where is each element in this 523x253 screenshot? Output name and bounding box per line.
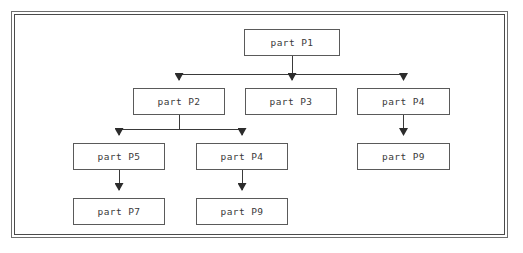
- node-part-p2[interactable]: part P2: [133, 88, 225, 115]
- diagram-screenshot: part P1 part P2 part P3 part P4 part P5 …: [0, 0, 523, 253]
- node-layer: part P1 part P2 part P3 part P4 part P5 …: [0, 0, 523, 253]
- node-label: part P3: [270, 97, 313, 107]
- node-part-p4-right[interactable]: part P4: [357, 88, 450, 115]
- node-part-p9-middle[interactable]: part P9: [196, 198, 288, 225]
- node-label: part P5: [98, 152, 141, 162]
- node-label: part P4: [221, 152, 264, 162]
- node-part-p4-middle[interactable]: part P4: [196, 143, 288, 170]
- node-part-p3[interactable]: part P3: [245, 88, 337, 115]
- node-label: part P9: [221, 207, 264, 217]
- node-label: part P4: [382, 97, 425, 107]
- node-part-p5[interactable]: part P5: [73, 143, 165, 170]
- node-part-p1[interactable]: part P1: [244, 29, 340, 56]
- node-label: part P7: [98, 207, 141, 217]
- node-part-p7[interactable]: part P7: [73, 198, 165, 225]
- node-part-p9-right[interactable]: part P9: [357, 143, 450, 170]
- node-label: part P1: [271, 38, 314, 48]
- node-label: part P9: [382, 152, 425, 162]
- node-label: part P2: [158, 97, 201, 107]
